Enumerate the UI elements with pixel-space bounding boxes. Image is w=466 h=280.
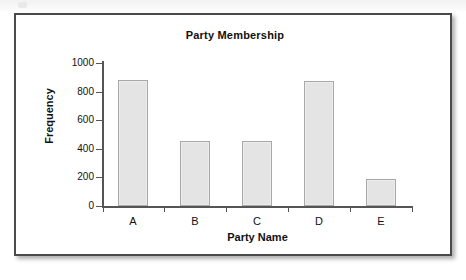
x-axis-tick-label-D: D xyxy=(299,215,339,227)
y-axis-tick-label-0: 0 xyxy=(48,201,94,211)
plot-area xyxy=(103,63,412,206)
x-axis-title: Party Name xyxy=(103,231,412,243)
x-axis-tick-label-A: A xyxy=(113,215,153,227)
y-axis-tick-200 xyxy=(96,177,103,178)
y-axis-tick-600 xyxy=(96,120,103,121)
x-axis-tick-label-E: E xyxy=(361,215,401,227)
bar-A[interactable] xyxy=(118,80,148,206)
y-axis-tick-1000 xyxy=(96,63,103,64)
x-axis-tick-label-C: C xyxy=(237,215,277,227)
y-axis-tick-0 xyxy=(96,206,103,207)
x-axis-tick-B-C xyxy=(226,206,227,212)
x-axis-tick-left-edge xyxy=(103,206,104,212)
x-axis-tick-C-D xyxy=(288,206,289,212)
x-axis-tick-D-E xyxy=(350,206,351,212)
x-axis-tick-label-B: B xyxy=(175,215,215,227)
chart-figure-frame: Party Membership 1000 800 600 400 200 0 … xyxy=(14,13,452,256)
y-axis-tick-label-1000: 1000 xyxy=(48,58,94,68)
chart-title: Party Membership xyxy=(16,29,454,41)
x-axis-line xyxy=(102,206,413,208)
bar-B[interactable] xyxy=(180,141,210,206)
page-scan-artifact-strip xyxy=(0,0,466,11)
x-axis-tick-A-B xyxy=(164,206,165,212)
y-axis-tick-800 xyxy=(96,92,103,93)
bar-D[interactable] xyxy=(304,81,334,206)
y-axis-tick-400 xyxy=(96,149,103,150)
bar-C[interactable] xyxy=(242,141,272,206)
y-axis-tick-label-200: 200 xyxy=(48,172,94,182)
y-axis-title: Frequency xyxy=(43,71,55,161)
bar-E[interactable] xyxy=(366,179,396,206)
x-axis-tick-right-edge xyxy=(412,206,413,212)
